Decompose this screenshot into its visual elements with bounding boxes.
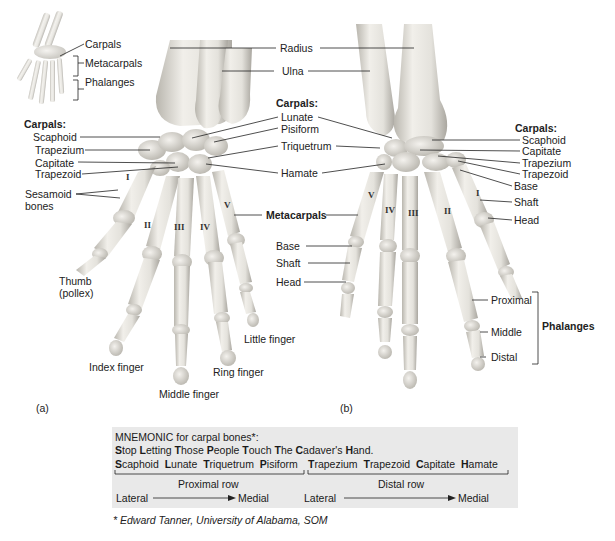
label-scaphoid-a: Scaphoid xyxy=(33,131,77,143)
label-proximal: Proximal xyxy=(491,294,532,306)
label-index-finger: Index finger xyxy=(89,361,144,373)
center-carpals-heading: Carpals: xyxy=(276,97,318,109)
label-shaft-b: Shaft xyxy=(514,196,539,208)
label-base: Base xyxy=(276,240,300,252)
lateral-label-distal: Lateral xyxy=(304,492,336,504)
panel-a-letter: (a) xyxy=(36,402,49,414)
panel-b-forearm xyxy=(356,24,447,142)
numeral-b-4: IV xyxy=(385,205,395,215)
panel-a-forearm xyxy=(156,40,252,128)
label-pisiform: Pisiform xyxy=(281,123,319,135)
label-sesamoid-bones: bones xyxy=(25,200,54,212)
inset-label-phalanges: Phalanges xyxy=(85,76,135,88)
label-trapezoid-a: Trapezoid xyxy=(35,168,81,180)
distal-row-label: Distal row xyxy=(378,478,424,490)
label-capitate-b: Capitate xyxy=(522,145,561,157)
label-middle-finger: Middle finger xyxy=(159,388,219,400)
inset-hand-icon xyxy=(16,10,66,104)
numeral-b-5: V xyxy=(368,190,375,200)
numeral-a-5: V xyxy=(224,200,231,210)
label-trapezoid-b: Trapezoid xyxy=(522,168,568,180)
label-base-b: Base xyxy=(514,180,538,192)
label-shaft: Shaft xyxy=(276,257,301,269)
inset-label-metacarpals: Metacarpals xyxy=(85,57,142,69)
label-middle: Middle xyxy=(491,326,522,338)
label-thumb: Thumb xyxy=(59,275,92,287)
numeral-b-3: III xyxy=(408,208,419,218)
label-ulna: Ulna xyxy=(282,65,304,77)
label-hamate: Hamate xyxy=(281,167,318,179)
label-trapezium-a: Trapezium xyxy=(35,144,84,156)
lateral-label-proximal: Lateral xyxy=(116,492,148,504)
label-phalanges: Phalanges xyxy=(542,320,595,332)
label-distal: Distal xyxy=(491,351,517,363)
numeral-a-2: II xyxy=(144,220,151,230)
label-radius: Radius xyxy=(280,42,313,54)
label-little-finger: Little finger xyxy=(244,333,295,345)
label-metacarpals: Metacarpals xyxy=(266,209,327,221)
medial-label-distal: Medial xyxy=(458,492,489,504)
panel-b-letter: (b) xyxy=(340,402,353,414)
panel-b-fingers xyxy=(340,172,485,389)
label-head-b: Head xyxy=(514,214,539,226)
mnemonic-box: MNEMONIC for carpal bones*: Stop Letting… xyxy=(112,427,518,508)
right-carpals-heading: Carpals: xyxy=(515,122,557,134)
label-sesamoid: Sesamoid xyxy=(25,188,72,200)
label-triquetrum: Triquetrum xyxy=(281,140,331,152)
numeral-a-4: IV xyxy=(200,222,210,232)
label-lunate: Lunate xyxy=(281,111,313,123)
footnote: * Edward Tanner, University of Alabama, … xyxy=(113,514,328,526)
numeral-a-3: III xyxy=(174,222,185,232)
numeral-b-1: I xyxy=(476,188,480,198)
left-carpals-heading: Carpals: xyxy=(24,118,66,130)
label-ring-finger: Ring finger xyxy=(213,366,264,378)
numeral-b-2: II xyxy=(444,206,451,216)
inset-label-carpals: Carpals xyxy=(85,38,121,50)
numeral-a-1: I xyxy=(126,172,130,182)
medial-label-proximal: Medial xyxy=(238,492,269,504)
label-head: Head xyxy=(276,276,301,288)
label-pollex: (pollex) xyxy=(59,287,93,299)
panel-b-carpals xyxy=(376,136,466,172)
proximal-row-label: Proximal row xyxy=(178,478,239,490)
